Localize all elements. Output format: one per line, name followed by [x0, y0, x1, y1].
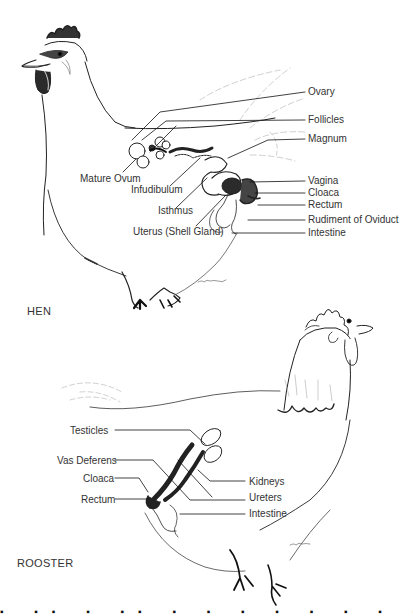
- hen-ovary-cluster: [129, 137, 170, 168]
- hen-label-follicles: Follicles: [308, 114, 344, 125]
- hen-label-uterus: Uterus (Shell Gland): [133, 226, 224, 237]
- hen-label-intestine: Intestine: [308, 227, 346, 238]
- hen-label-ovary: Ovary: [308, 86, 335, 97]
- hen-label-cloaca: Cloaca: [308, 187, 339, 198]
- hen-drawing: [22, 26, 305, 309]
- hen-label-mature-ovum: Mature Ovum: [80, 173, 141, 184]
- truncated-caption: ▪ ▪▪ ▪ ▪▪ ▪ ▪ ▪ ▪ ▪ ▪ ▪ ▪: [0, 606, 413, 616]
- rooster-label-ureters: Ureters: [249, 492, 282, 503]
- hen-title: HEN: [27, 305, 51, 317]
- hen-label-vagina: Vagina: [308, 175, 338, 186]
- rooster-title: ROOSTER: [17, 557, 74, 569]
- rooster-label-testicles: Testicles: [70, 425, 108, 436]
- hen-oviduct: [170, 148, 260, 234]
- rooster-label-rectum: Rectum: [81, 494, 115, 505]
- hen-label-rectum: Rectum: [308, 199, 342, 210]
- rooster-label-cloaca: Cloaca: [83, 473, 114, 484]
- rooster-label-vas-deferens: Vas Deferens: [57, 455, 117, 466]
- rooster-label-intestine: Intestine: [249, 508, 287, 519]
- rooster-label-kidneys: Kidneys: [249, 476, 285, 487]
- rooster-leader-lines: [115, 430, 245, 514]
- hen-label-infudibulum: Infudibulum: [131, 184, 183, 195]
- hen-label-magnum: Magnum: [308, 133, 347, 144]
- hen-label-rudiment-of-oviduct: Rudiment of Oviduct: [308, 214, 399, 225]
- hen-label-isthmus: Isthmus: [158, 205, 193, 216]
- reproductive-anatomy-illustration: [0, 0, 413, 616]
